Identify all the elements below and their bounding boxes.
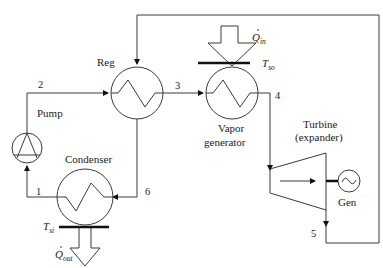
reg-label: Reg xyxy=(97,56,115,68)
condenser-label: Condenser xyxy=(65,153,112,165)
orc-diagram: Reg Pump Vapor generator Condenser Turbi… xyxy=(0,0,383,268)
turbine-label-1: Turbine xyxy=(303,118,338,130)
heat-in-arrow xyxy=(208,26,256,66)
pipe-6 xyxy=(113,119,137,197)
vapor-generator-symbol xyxy=(206,67,258,119)
state-point-1: 1 xyxy=(36,186,41,197)
condenser-symbol xyxy=(57,169,113,225)
state-point-2: 2 xyxy=(38,79,43,90)
gen-label: Gen xyxy=(338,196,357,208)
heat-out-label: Qout xyxy=(55,248,73,263)
heat-out-arrow xyxy=(70,227,100,266)
pipe-1 xyxy=(27,166,57,197)
sink-temp-label: Tsi xyxy=(43,220,54,235)
pump-symbol xyxy=(12,133,42,163)
turbine-symbol xyxy=(270,153,326,210)
vapor-generator-label-1: Vapor xyxy=(218,122,245,134)
source-temp-label: Tso xyxy=(262,57,275,72)
turbine-label-2: (expander) xyxy=(295,131,343,144)
state-point-5: 5 xyxy=(311,228,316,239)
regenerator-symbol xyxy=(111,67,163,119)
pump-label: Pump xyxy=(37,107,63,119)
state-point-6: 6 xyxy=(145,186,150,197)
heat-in-label: Qin xyxy=(252,31,266,46)
state-point-3: 3 xyxy=(175,80,180,91)
state-point-4: 4 xyxy=(275,90,281,101)
pipe-5-to-reg xyxy=(137,15,379,243)
pipe-4 xyxy=(258,93,270,170)
vapor-generator-label-2: generator xyxy=(204,136,246,148)
generator-symbol xyxy=(338,170,360,192)
